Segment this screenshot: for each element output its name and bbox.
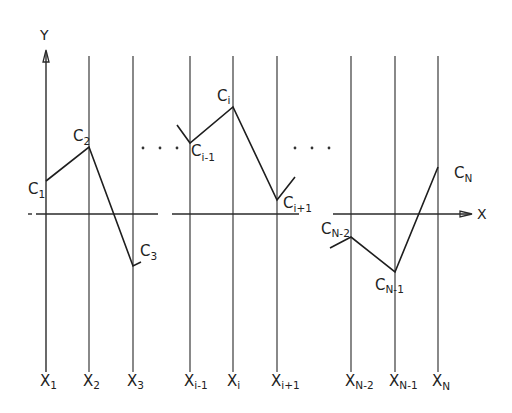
y-axis-label: Y [39,27,49,43]
x-tick-labels: X1 X2 X3 Xi-1 Xi Xi+1 XN-2 XN-1 XN [40,372,450,392]
label-cn-2: CN-2 [321,220,350,239]
segment-group-end [330,167,438,272]
point-labels: C1 C2 C3 Ci-1 Ci Ci+1 CN-2 CN-1 CN [28,87,472,295]
ellipsis-right [294,147,331,150]
piecewise-linear-diagram: Y X C1 [0,0,512,413]
label-xi-1: Xi-1 [184,372,208,391]
label-xn: XN [432,372,450,392]
label-xi+1: Xi+1 [271,372,300,391]
label-c3: C3 [140,242,157,262]
piecewise-curves [46,107,438,272]
ellipsis-left [142,147,179,150]
label-x1: X1 [40,372,57,391]
label-c1: C1 [28,180,45,200]
x-axis-label: X [477,206,487,222]
label-ci: Ci [217,87,230,106]
label-cn-1: CN-1 [375,276,404,295]
label-c2: C2 [73,127,90,147]
label-cn: CN [454,164,472,184]
label-x2: X2 [83,372,100,391]
segment-group-start [46,147,141,266]
label-xn-2: XN-2 [345,372,374,391]
label-x3: X3 [127,372,144,391]
label-ci+1: Ci+1 [283,194,312,214]
label-xi: Xi [227,372,240,391]
label-xn-1: XN-1 [389,372,418,391]
label-ci-1: Ci-1 [191,142,215,163]
